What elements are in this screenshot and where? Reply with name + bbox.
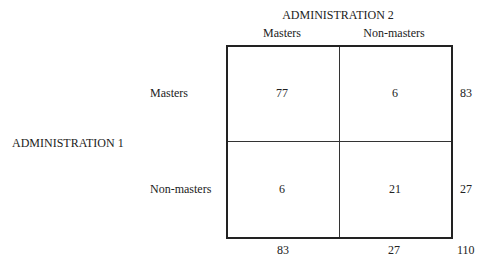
- cell-non-masters-masters: 6: [279, 182, 285, 197]
- cell-masters-non-masters: 6: [392, 86, 398, 101]
- contingency-table-box: [226, 45, 453, 239]
- vertical-divider: [339, 47, 340, 237]
- column-total-non-masters: 27: [388, 243, 400, 258]
- cell-non-masters-non-masters: 21: [389, 182, 401, 197]
- grand-total: 110: [457, 243, 475, 258]
- column-header-non-masters: Non-masters: [363, 26, 424, 41]
- horizontal-divider: [228, 141, 451, 142]
- column-header-masters: Masters: [263, 26, 301, 41]
- row-label-non-masters: Non-masters: [150, 182, 211, 197]
- cell-masters-masters: 77: [276, 86, 288, 101]
- column-total-masters: 83: [277, 243, 289, 258]
- row-header-title: ADMINISTRATION 1: [12, 136, 124, 151]
- row-total-non-masters: 27: [460, 182, 472, 197]
- column-header-title: ADMINISTRATION 2: [282, 8, 394, 23]
- row-total-masters: 83: [460, 86, 472, 101]
- row-label-masters: Masters: [150, 86, 188, 101]
